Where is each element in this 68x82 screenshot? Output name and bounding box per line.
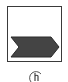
chevron-shape-icon [10,36,60,58]
chevron-shape-button[interactable] [7,6,62,62]
shape-gallery-item [0,0,68,82]
hand-cursor-icon [29,68,43,82]
